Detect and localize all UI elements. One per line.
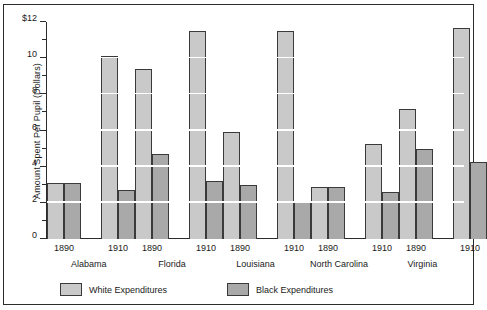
legend-swatch	[60, 283, 82, 296]
legend-item[interactable]: Black Expenditures	[227, 283, 333, 296]
state-group	[399, 22, 487, 239]
x-state-label: North Carolina	[297, 259, 380, 273]
y-tick-major	[40, 57, 46, 58]
x-state-label: Louisiana	[214, 259, 297, 273]
x-year-label: 1910	[101, 243, 135, 257]
year-bar-pair	[399, 22, 433, 239]
y-tick-label: 4	[32, 158, 37, 168]
y-tick-minor	[42, 111, 46, 112]
x-year-label: 1890	[223, 243, 257, 257]
bar-white-expenditures[interactable]	[399, 109, 416, 239]
x-year-label: 1890	[135, 243, 169, 257]
bar-black-expenditures[interactable]	[470, 162, 487, 239]
y-tick-major	[40, 238, 46, 239]
bar-black-expenditures[interactable]	[240, 185, 257, 239]
y-tick-major	[40, 130, 46, 131]
x-year-label: 1890	[47, 243, 81, 257]
x-year-label: 1890	[399, 243, 433, 257]
x-year-label: 1890	[311, 243, 345, 257]
legend-swatch	[227, 283, 249, 296]
bar-black-expenditures[interactable]	[64, 183, 81, 239]
x-year-label: 1910	[365, 243, 399, 257]
bar-black-expenditures[interactable]	[382, 192, 399, 239]
x-state-label: Alabama	[47, 259, 130, 273]
year-bar-pair	[189, 22, 223, 239]
x-label-group: 18901910	[311, 243, 399, 257]
bar-black-expenditures[interactable]	[328, 187, 345, 239]
bar-white-expenditures[interactable]	[223, 132, 240, 239]
y-tick-major	[40, 93, 46, 94]
y-tick-minor	[42, 184, 46, 185]
x-state-label: Florida	[130, 259, 213, 273]
y-tick-label: 8	[32, 85, 37, 95]
y-tick-label: 0	[32, 230, 37, 240]
x-label-group: 18901910	[223, 243, 311, 257]
state-group	[47, 22, 135, 239]
bar-white-expenditures[interactable]	[189, 31, 206, 239]
chart-legend: White ExpendituresBlack Expenditures	[60, 283, 333, 296]
year-bar-pair	[453, 22, 487, 239]
x-axis-year-labels: 1890191018901910189019101890191018901910	[47, 243, 464, 257]
y-tick-label: 6	[32, 122, 37, 132]
year-bar-pair	[135, 22, 169, 239]
bar-groups	[47, 22, 464, 239]
bar-white-expenditures[interactable]	[453, 28, 470, 239]
bar-white-expenditures[interactable]	[365, 144, 382, 239]
y-tick-minor	[42, 220, 46, 221]
bar-black-expenditures[interactable]	[294, 201, 311, 239]
x-year-label: 1910	[277, 243, 311, 257]
y-tick-minor	[42, 75, 46, 76]
year-bar-pair	[277, 22, 311, 239]
state-group	[223, 22, 311, 239]
year-bar-pair	[101, 22, 135, 239]
plot-area: 0246810$12	[46, 22, 464, 239]
x-axis-state-labels: AlabamaFloridaLouisianaNorth CarolinaVir…	[47, 259, 464, 273]
bar-black-expenditures[interactable]	[118, 190, 135, 239]
x-year-label: 1910	[189, 243, 223, 257]
state-group	[311, 22, 399, 239]
bar-white-expenditures[interactable]	[101, 56, 118, 239]
x-year-label: 1910	[453, 243, 487, 257]
bar-white-expenditures[interactable]	[277, 31, 294, 239]
y-tick-label: 2	[32, 194, 37, 204]
year-bar-pair	[365, 22, 399, 239]
legend-label: Black Expenditures	[256, 285, 333, 295]
x-label-group: 18901910	[47, 243, 135, 257]
y-tick-minor	[42, 39, 46, 40]
y-tick-label: 10	[27, 49, 37, 59]
bar-white-expenditures[interactable]	[135, 69, 152, 239]
bar-black-expenditures[interactable]	[152, 154, 169, 239]
bar-white-expenditures[interactable]	[47, 183, 64, 239]
year-bar-pair	[47, 22, 81, 239]
y-tick-major	[40, 202, 46, 203]
x-label-group: 18901910	[399, 243, 487, 257]
state-group	[135, 22, 223, 239]
y-tick-major	[40, 166, 46, 167]
x-label-group: 18901910	[135, 243, 223, 257]
legend-label: White Expenditures	[89, 285, 167, 295]
y-tick-label: $12	[22, 13, 37, 23]
y-tick-major	[40, 21, 46, 22]
bar-black-expenditures[interactable]	[206, 181, 223, 239]
legend-item[interactable]: White Expenditures	[60, 283, 167, 296]
x-state-label: Virginia	[381, 259, 464, 273]
y-tick-minor	[42, 148, 46, 149]
bar-black-expenditures[interactable]	[416, 149, 433, 239]
year-bar-pair	[311, 22, 345, 239]
year-bar-pair	[223, 22, 257, 239]
bar-white-expenditures[interactable]	[311, 187, 328, 239]
